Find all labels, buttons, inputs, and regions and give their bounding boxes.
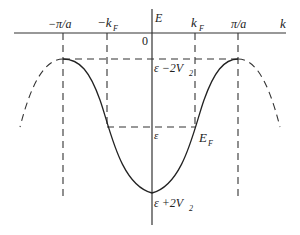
band-structure-diagram: k E 0 −π/a −k F k F π/a ε −2V 2 ε E F ε …: [0, 0, 300, 235]
band-extension-left: [20, 59, 63, 127]
svg-text:−k: −k: [97, 15, 112, 30]
svg-text:2: 2: [189, 69, 193, 78]
label-fermi-energy: E F: [198, 130, 213, 148]
label-band-top: ε −2V 2: [154, 61, 193, 78]
origin-label: 0: [142, 34, 148, 48]
tick-label-neg-kf: −k F: [97, 15, 118, 33]
label-fermi-epsilon: ε: [154, 129, 159, 141]
svg-text:E: E: [198, 130, 207, 145]
svg-text:F: F: [207, 139, 213, 148]
band-extension-right: [238, 59, 280, 127]
label-band-bottom: ε +2V 2: [154, 196, 193, 213]
svg-text:k: k: [191, 15, 197, 30]
svg-text:F: F: [198, 24, 204, 33]
svg-text:2: 2: [189, 204, 193, 213]
tick-label-neg-pi-a: −π/a: [48, 17, 71, 31]
svg-text:ε +2V: ε +2V: [154, 196, 185, 210]
k-axis-label: k: [280, 16, 286, 31]
svg-text:ε −2V: ε −2V: [154, 61, 185, 75]
tick-label-kf: k F: [191, 15, 204, 33]
tick-label-pi-a: π/a: [231, 17, 246, 31]
e-axis-label: E: [154, 11, 163, 25]
svg-text:F: F: [112, 24, 118, 33]
band-curve: [63, 59, 238, 193]
